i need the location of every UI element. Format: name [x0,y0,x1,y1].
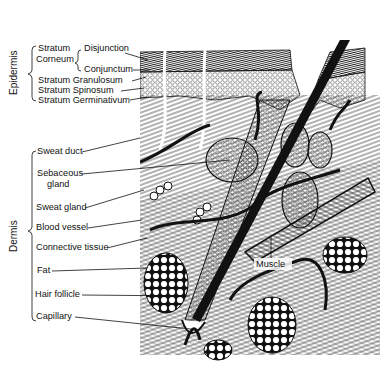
label-stratum-germinativum: Stratum Germinativum [38,95,130,106]
label-capillary: Capillary [36,311,72,322]
label-sebaceous-gland-line2: gland [47,179,69,190]
label-sweat-duct: Sweat duct [37,146,82,157]
label-connective-tissue: Connective tissue [36,242,109,253]
label-disjunction: Disjunction [84,43,129,54]
region-label-dermis: Dermis [8,220,19,252]
label-sebaceous-gland-line1: Sebaceous [37,168,83,179]
label-hair-follicle: Hair follicle [35,289,80,300]
label-fat: Fat [37,265,50,276]
label-sweat-gland: Sweat gland [36,202,87,213]
label-muscle: Muscle [256,259,285,270]
region-label-epidermis: Epidermis [8,51,19,95]
label-conjunctum: Conjunctum [84,64,133,75]
label-blood-vessel: Blood vessel [36,222,88,233]
label-stratum-corneum-line2: Corneum [36,54,74,65]
label-stratum-corneum-line1: Stratum [38,43,70,54]
